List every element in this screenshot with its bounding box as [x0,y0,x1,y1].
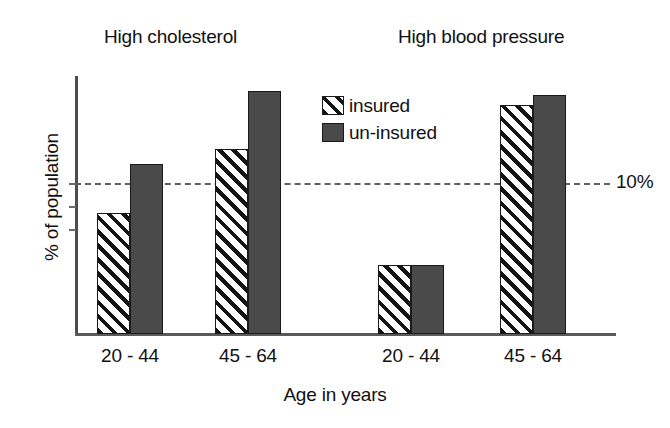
bar-uninsured-bloodpressure-20-44 [411,265,444,334]
y-axis-label: % of population [41,107,63,287]
x-tick-label-1: 20 - 44 [70,345,190,367]
x-tick-label-2: 45 - 64 [188,345,308,367]
legend-item-uninsured: un-insured [322,119,437,146]
x-tick-label-4: 45 - 64 [473,345,593,367]
x-axis-label: Age in years [0,384,670,406]
bar-insured-bloodpressure-20-44 [378,265,411,334]
chart-legend: insured un-insured [322,92,437,146]
x-tick-label-3: 20 - 44 [351,345,471,367]
bar-insured-bloodpressure-45-64 [500,105,533,334]
y-axis-tick [69,229,76,231]
bar-insured-cholesterol-45-64 [215,149,248,334]
legend-label-uninsured: un-insured [349,122,437,144]
bar-uninsured-cholesterol-45-64 [248,91,281,334]
reference-line-label: 10% [616,171,653,193]
group-title-high-blood-pressure: High blood pressure [398,26,564,48]
chart-canvas: High cholesterol High blood pressure % o… [0,0,670,428]
legend-item-insured: insured [322,92,437,119]
group-title-high-cholesterol: High cholesterol [104,26,237,48]
legend-label-insured: insured [349,95,410,117]
legend-swatch-insured-icon [322,96,344,115]
bar-insured-cholesterol-20-44 [97,213,130,334]
bar-uninsured-bloodpressure-45-64 [533,95,566,334]
bar-uninsured-cholesterol-20-44 [130,164,163,334]
y-axis-tick [69,206,76,208]
legend-swatch-uninsured-icon [322,123,344,142]
